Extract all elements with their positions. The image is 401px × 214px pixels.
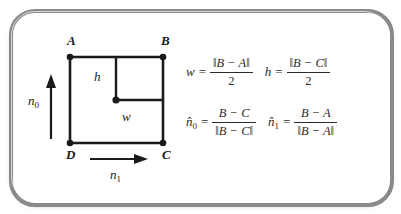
formula-n1-lhs-subscript: 1 bbox=[275, 121, 280, 131]
vertex-label-A: A bbox=[67, 34, 76, 47]
formula-w-fraction: ‖B − A‖ 2 bbox=[210, 56, 253, 89]
formula-w-lhs: w bbox=[186, 64, 195, 80]
formula-h-fraction: ‖B − C‖ 2 bbox=[287, 56, 331, 89]
vertex-label-B: B bbox=[161, 34, 170, 47]
formula-n0-numerator: B − C bbox=[216, 106, 253, 122]
formula-n1: n̂1 = B − A ‖B − A‖ bbox=[268, 106, 337, 139]
vertex-dot-A bbox=[67, 54, 74, 61]
vertex-dot-B bbox=[160, 54, 167, 61]
formula-n1-equals: = bbox=[283, 114, 290, 130]
measure-label-h: h bbox=[94, 70, 101, 83]
formula-w-denominator: 2 bbox=[225, 73, 237, 89]
formula-h-denominator: 2 bbox=[302, 73, 314, 89]
measure-label-w: w bbox=[122, 110, 131, 123]
formula-n1-numerator: B − A bbox=[298, 106, 334, 122]
vertex-dot-C bbox=[160, 140, 167, 147]
formula-h-equals: = bbox=[275, 64, 282, 80]
basis-vector-label-n1: n1 bbox=[110, 168, 121, 184]
formula-n0-lhs: n̂0 bbox=[186, 114, 197, 131]
formula-w-equals: = bbox=[199, 64, 206, 80]
n1-arrow-head-icon bbox=[134, 154, 148, 164]
formula-row-top: w = ‖B − A‖ 2 h = ‖B − C‖ 2 bbox=[186, 56, 330, 89]
vertex-dot-D bbox=[67, 140, 74, 147]
formula-n0-lhs-subscript: 0 bbox=[193, 121, 198, 131]
n0-arrow-head-icon bbox=[46, 74, 56, 88]
vertex-label-D: D bbox=[66, 148, 75, 161]
formula-h: h = ‖B − C‖ 2 bbox=[265, 56, 331, 89]
formula-n0-equals: = bbox=[201, 114, 208, 130]
formula-n1-fraction: B − A ‖B − A‖ bbox=[294, 106, 337, 139]
formula-n0-fraction: B − C ‖B − C‖ bbox=[212, 106, 256, 139]
basis-vector-n1-subscript: 1 bbox=[117, 174, 122, 184]
basis-vector-label-n0: n0 bbox=[28, 94, 39, 110]
formula-h-lhs: h bbox=[265, 64, 272, 80]
figure-canvas: A B C D h w n0 n1 w = ‖B − A‖ 2 h = bbox=[0, 0, 401, 214]
formula-h-numerator: ‖B − C‖ bbox=[287, 56, 331, 72]
formula-w: w = ‖B − A‖ 2 bbox=[186, 56, 253, 89]
vertex-label-C: C bbox=[162, 148, 171, 161]
formula-n1-denominator: ‖B − A‖ bbox=[294, 123, 337, 139]
formula-n0-denominator: ‖B − C‖ bbox=[212, 123, 256, 139]
vertex-dot-center bbox=[112, 96, 119, 103]
formula-block: w = ‖B − A‖ 2 h = ‖B − C‖ 2 n bbox=[186, 50, 386, 165]
basis-vector-n0-subscript: 0 bbox=[35, 100, 40, 110]
formula-n1-lhs: n̂1 bbox=[268, 114, 279, 131]
quad-diagram: A B C D h w n0 n1 bbox=[22, 22, 192, 192]
formula-n0: n̂0 = B − C ‖B − C‖ bbox=[186, 106, 256, 139]
formula-row-bottom: n̂0 = B − C ‖B − C‖ n̂1 = B − A ‖B − A‖ bbox=[186, 106, 337, 139]
formula-w-numerator: ‖B − A‖ bbox=[210, 56, 253, 72]
